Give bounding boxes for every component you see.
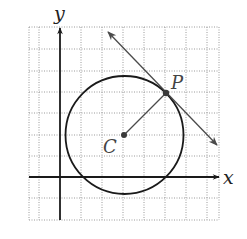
x-axis-label: x	[223, 166, 234, 188]
point-label-p: P	[170, 72, 184, 93]
point-label-c: C	[103, 136, 117, 157]
radius-segment-cp	[124, 93, 166, 135]
circle-tangent-diagram: x y C P	[0, 0, 247, 239]
center-point-c	[121, 132, 127, 138]
grid	[29, 27, 219, 220]
y-axis-label: y	[53, 2, 65, 24]
tangent-point-p	[163, 90, 169, 96]
